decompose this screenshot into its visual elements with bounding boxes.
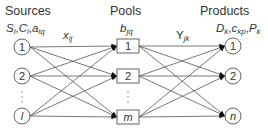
pool-node-m: m bbox=[117, 110, 139, 124]
source-node-l: l bbox=[14, 108, 30, 124]
products-params-label: Dk,ckp,Pk bbox=[216, 22, 262, 36]
products-header: Products bbox=[200, 4, 249, 18]
svg-text:1: 1 bbox=[230, 40, 236, 52]
pool-product-edges bbox=[139, 46, 225, 117]
svg-text:n: n bbox=[230, 110, 236, 122]
svg-text:m: m bbox=[123, 111, 132, 123]
pools-params-label: bjq bbox=[120, 22, 133, 36]
source-ellipsis bbox=[21, 91, 23, 103]
svg-text:2: 2 bbox=[19, 70, 25, 82]
sources-header: Sources bbox=[5, 4, 51, 18]
svg-text:2: 2 bbox=[125, 70, 131, 82]
svg-text:1: 1 bbox=[19, 41, 25, 53]
network-diagram: Sources Pools Products Si,Ci,aiq bjq Dk,… bbox=[0, 0, 268, 132]
product-node-2: 2 bbox=[225, 68, 241, 84]
pool-node-1: 1 bbox=[117, 39, 139, 53]
source-node-1: 1 bbox=[14, 39, 30, 55]
pool-ellipsis bbox=[127, 91, 129, 103]
product-node-n: n bbox=[225, 108, 241, 124]
pools-header: Pools bbox=[110, 4, 141, 18]
flow-label-xij: xij bbox=[62, 29, 73, 43]
svg-text:2: 2 bbox=[230, 70, 236, 82]
product-node-1: 1 bbox=[225, 38, 241, 54]
source-pool-edges bbox=[30, 46, 117, 117]
flow-label-yjk: Yjk bbox=[176, 29, 190, 43]
source-node-2: 2 bbox=[14, 68, 30, 84]
svg-text:1: 1 bbox=[125, 40, 131, 52]
pool-node-2: 2 bbox=[117, 69, 139, 83]
sources-params-label: Si,Ci,aiq bbox=[6, 22, 45, 36]
